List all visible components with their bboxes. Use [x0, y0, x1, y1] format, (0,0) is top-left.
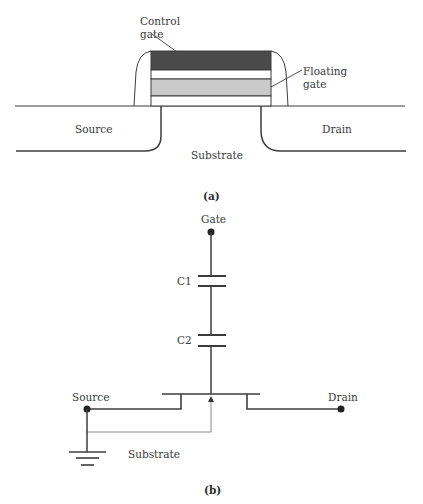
- drain-wire: [247, 394, 341, 409]
- tunnel-oxide: [151, 96, 271, 106]
- source-terminal-label: Source: [72, 391, 109, 403]
- control-gate-label-line2: gate: [140, 28, 163, 40]
- control-gate: [151, 51, 271, 70]
- drain-terminal-dot: [338, 406, 345, 413]
- gate-terminal-label: Gate: [201, 213, 226, 225]
- ground-icon: [69, 452, 106, 465]
- c1-label: C1: [177, 275, 192, 287]
- right-spacer: [271, 51, 288, 106]
- left-spacer: [134, 51, 151, 106]
- cross-section-diagram: Control gate Floating gate Source Drain …: [15, 15, 406, 202]
- floating-gate: [151, 79, 271, 96]
- drain-terminal-label: Drain: [328, 391, 358, 403]
- substrate-label: Substrate: [191, 149, 243, 161]
- source-label: Source: [75, 123, 112, 135]
- figure-b-caption: (b): [204, 484, 221, 496]
- substrate-terminal-label: Substrate: [128, 448, 180, 460]
- figure-a-caption: (a): [203, 190, 220, 202]
- floating-gate-label-line2: gate: [303, 78, 326, 90]
- c2-label: C2: [177, 334, 192, 346]
- control-gate-label-line1: Control: [140, 15, 181, 27]
- inter-gate-dielectric: [151, 70, 271, 79]
- substrate-arrow-icon: [208, 396, 214, 402]
- drain-label: Drain: [322, 123, 352, 135]
- floating-gate-label-line1: Floating: [303, 65, 348, 77]
- equivalent-circuit-diagram: Gate C1 C2 Source Drain: [69, 213, 358, 496]
- substrate-wire: [87, 401, 211, 432]
- flash-cell-figure: Control gate Floating gate Source Drain …: [0, 0, 423, 504]
